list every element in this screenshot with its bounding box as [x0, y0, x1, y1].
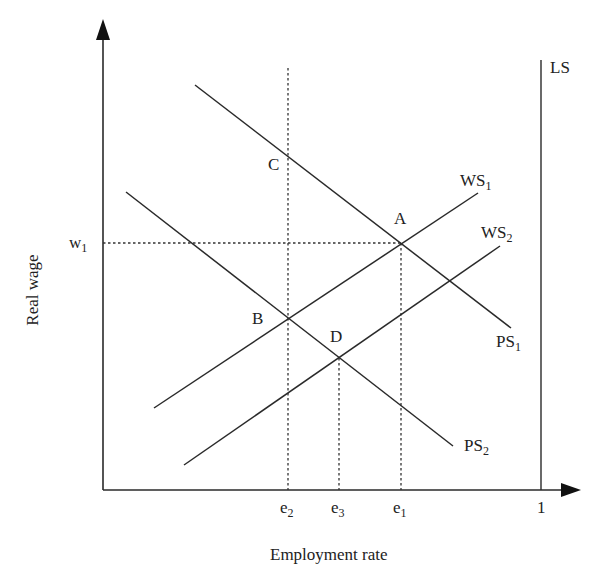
x-tick-e3: e3	[331, 499, 345, 516]
ws2-curve	[184, 246, 500, 465]
ps1-label: PS1	[496, 333, 521, 350]
diagram-canvas	[0, 0, 599, 587]
x-tick-1: 1	[537, 499, 546, 516]
point-a-label: A	[394, 210, 406, 227]
x-tick-e1: e1	[393, 499, 407, 516]
y-axis-arrow-icon	[96, 19, 110, 40]
x-axis-arrow-icon	[561, 483, 581, 497]
point-c-label: C	[268, 156, 279, 173]
ps2-curve	[126, 192, 453, 446]
ws1-label: WS1	[460, 172, 492, 189]
x-axis-title: Employment rate	[270, 546, 388, 563]
ws1-curve	[154, 193, 478, 408]
ps1-curve	[195, 85, 511, 328]
ps2-label: PS2	[464, 437, 489, 454]
point-d-label: D	[330, 328, 342, 345]
ws2-label: WS2	[481, 224, 513, 241]
point-b-label: B	[252, 310, 263, 327]
ls-label: LS	[550, 59, 570, 76]
x-tick-e2: e2	[280, 499, 294, 516]
y-axis-title: Real wage	[24, 240, 41, 340]
y-tick-w1: w1	[69, 234, 87, 251]
